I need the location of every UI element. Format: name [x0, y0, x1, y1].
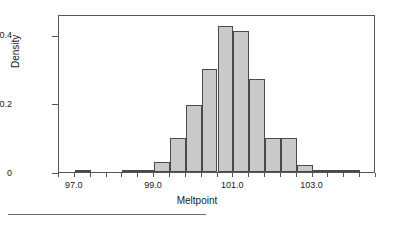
- x-tick-mark: [58, 173, 59, 177]
- x-tick-mark: [153, 173, 154, 177]
- x-tick-mark: [106, 173, 107, 177]
- x-tick-mark: [248, 173, 249, 177]
- x-tick-mark: [121, 173, 122, 177]
- y-axis-title: Density: [10, 54, 21, 68]
- x-tick-mark: [74, 173, 75, 177]
- x-tick-mark: [169, 173, 170, 177]
- x-tick-mark: [137, 173, 138, 177]
- x-tick-mark: [264, 173, 265, 177]
- x-tick-mark: [217, 173, 218, 177]
- x-tick-mark: [90, 173, 91, 177]
- x-tick-mark: [280, 173, 281, 177]
- x-tick-mark: [343, 173, 344, 177]
- bottom-rule: [8, 214, 206, 215]
- x-tick-label: 101.0: [221, 180, 244, 190]
- histogram-figure: 00.20.4 97.099.0101.0103.0 Density Meltp…: [0, 0, 394, 225]
- x-axis: 97.099.0101.0103.0: [0, 0, 394, 225]
- x-tick-mark: [232, 173, 233, 177]
- x-tick-mark: [312, 173, 313, 177]
- x-tick-label: 99.0: [144, 180, 162, 190]
- x-tick-mark: [359, 173, 360, 177]
- x-tick-mark: [185, 173, 186, 177]
- x-tick-label: 103.0: [300, 180, 323, 190]
- x-tick-mark: [375, 173, 376, 177]
- x-tick-mark: [201, 173, 202, 177]
- x-tick-mark: [296, 173, 297, 177]
- x-axis-title: Meltpoint: [0, 195, 394, 206]
- x-tick-mark: [327, 173, 328, 177]
- x-tick-label: 97.0: [65, 180, 83, 190]
